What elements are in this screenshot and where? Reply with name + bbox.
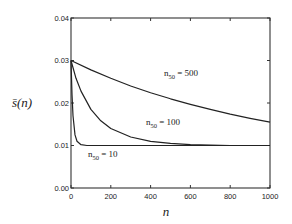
y-tick-label: 0.03 bbox=[54, 56, 69, 65]
x-tick-label: 0 bbox=[69, 192, 73, 201]
x-tick-label: 800 bbox=[224, 192, 237, 201]
y-tick-label: 0.00 bbox=[54, 184, 69, 193]
curve-label: n50 = 500 bbox=[164, 68, 199, 80]
x-tick-label: 1000 bbox=[262, 192, 279, 201]
y-tick-label: 0.02 bbox=[54, 99, 69, 108]
curve-labels: n50 = 500n50 = 100n50 = 10 bbox=[88, 68, 199, 161]
plot-border bbox=[71, 18, 270, 188]
y-tick-label: 0.01 bbox=[54, 141, 69, 150]
curve-label: n50 = 10 bbox=[88, 149, 118, 161]
x-tick-label: 600 bbox=[184, 192, 197, 201]
axis-ticks: 020040060080010000.000.010.020.030.04 bbox=[54, 14, 278, 202]
x-axis-title: n bbox=[163, 204, 170, 219]
y-tick-label: 0.04 bbox=[54, 14, 69, 23]
curve-label: n50 = 100 bbox=[146, 117, 181, 129]
y-axis-title: s̄(n) bbox=[12, 95, 32, 110]
line-chart: 020040060080010000.000.010.020.030.04 n5… bbox=[0, 0, 292, 224]
plot-frame bbox=[71, 18, 270, 188]
x-tick-label: 200 bbox=[105, 192, 118, 201]
x-tick-label: 400 bbox=[144, 192, 157, 201]
curve-0 bbox=[71, 61, 270, 123]
